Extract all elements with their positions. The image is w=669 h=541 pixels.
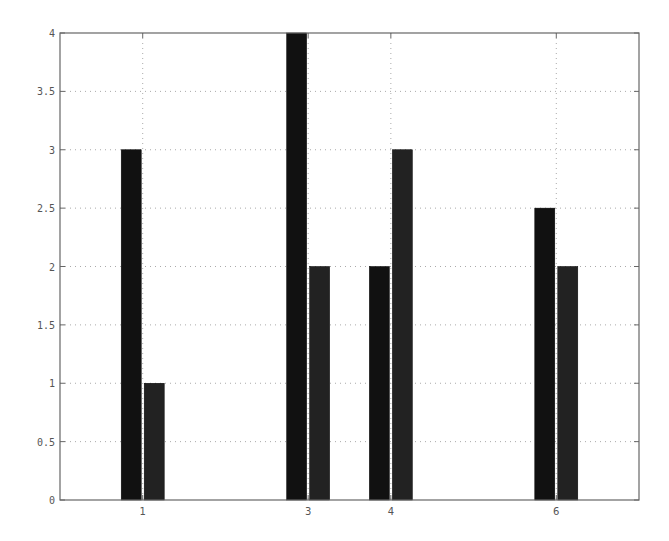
x-tick-label: 6 <box>553 506 559 517</box>
bar-1-x3 <box>287 33 307 500</box>
x-tick-label: 4 <box>388 506 394 517</box>
bar-1-x1 <box>121 150 141 500</box>
y-tick-label: 1.5 <box>37 320 55 331</box>
bar-2-x4 <box>392 150 412 500</box>
y-tick-label: 4 <box>49 28 55 39</box>
bar-2-x1 <box>144 383 164 500</box>
x-tick-label: 3 <box>305 506 311 517</box>
x-tick-label: 1 <box>140 506 146 517</box>
y-tick-label: 1 <box>49 378 55 389</box>
y-tick-label: 3 <box>49 145 55 156</box>
y-tick-label: 2.5 <box>37 203 55 214</box>
y-axis-tick-labels: 00.511.522.533.54 <box>37 28 55 506</box>
y-tick-label: 0 <box>49 495 55 506</box>
bar-2-x3 <box>310 267 330 501</box>
bar-1-x6 <box>535 208 555 500</box>
bar-1-x4 <box>369 267 389 501</box>
y-tick-label: 0.5 <box>37 437 55 448</box>
y-tick-label: 3.5 <box>37 86 55 97</box>
y-tick-label: 2 <box>49 262 55 273</box>
bar-chart: 00.511.522.533.54 1346 <box>0 0 669 541</box>
x-axis-tick-labels: 1346 <box>140 506 560 517</box>
bar-2-x6 <box>558 267 578 501</box>
